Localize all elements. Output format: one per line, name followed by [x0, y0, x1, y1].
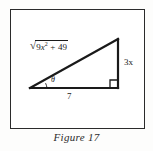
figure-caption: Figure 17 [0, 131, 153, 143]
right-triangle-diagram [0, 0, 153, 151]
vertical-leg-label: 3x [124, 58, 133, 67]
hypotenuse-label: √9x2 + 49 [30, 40, 68, 52]
figure-page: √9x2 + 49 3x 7 θ Figure 17 [0, 0, 153, 151]
theta-angle-label: θ [51, 76, 55, 84]
radicand: 9x2 + 49 [35, 40, 68, 52]
radicand-constant: 49 [58, 42, 67, 52]
radicand-exponent: 2 [45, 41, 48, 47]
base-leg-label: 7 [67, 92, 72, 101]
right-angle-marker [110, 80, 118, 88]
radicand-operator: + [50, 42, 55, 52]
